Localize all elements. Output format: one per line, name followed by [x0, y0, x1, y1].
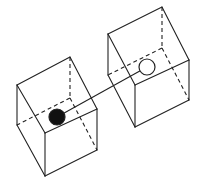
visible-edge [45, 150, 97, 176]
diagram-canvas: Two wireframe cubes connected by a strai… [0, 0, 208, 190]
white-ball [139, 59, 155, 75]
visible-edge [17, 125, 45, 176]
hidden-edge [162, 48, 189, 100]
visible-edge [70, 57, 97, 109]
hidden-edge [70, 98, 97, 150]
visible-edge [135, 100, 189, 127]
visible-edge [17, 57, 70, 85]
visible-edge [17, 85, 45, 133]
black-ball [49, 109, 65, 125]
visible-edge [162, 7, 189, 60]
visible-edge [108, 7, 162, 34]
visible-edge [108, 75, 135, 127]
two-cubes-diagram [0, 0, 208, 190]
visible-edge [108, 34, 135, 85]
